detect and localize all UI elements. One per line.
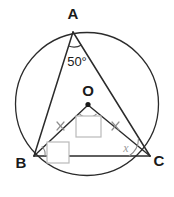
angle-label-a: 50° — [67, 54, 87, 69]
geometry-figure: A B C O 50° x — [0, 0, 174, 197]
vertex-label-a: A — [68, 5, 79, 22]
answer-box-angle-b[interactable] — [47, 142, 69, 163]
geometry-diagram: A B C O 50° x — [0, 0, 174, 197]
vertex-label-c: C — [154, 152, 165, 169]
vertex-label-b: B — [16, 154, 27, 171]
answer-box-angle-o[interactable] — [76, 116, 101, 137]
angle-label-c: x — [122, 141, 129, 155]
center-point-dot — [85, 102, 90, 107]
angle-arc-a — [69, 45, 82, 47]
tick-mark-ob — [57, 122, 64, 130]
angle-arc-c — [129, 139, 139, 157]
center-label-o: O — [82, 82, 94, 99]
